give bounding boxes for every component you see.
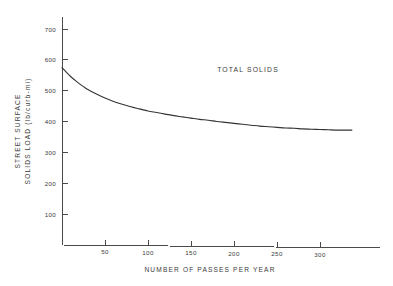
total-solids-line-chart: 700 600 500 400 300 200 100 50 100 150 2…	[0, 0, 393, 286]
y-tick-label-100: 100	[45, 211, 57, 218]
x-tick-label-50: 50	[101, 248, 109, 255]
x-axis-tick-labels: 50 100 150 200 250 300	[101, 248, 326, 258]
x-tick-label-100: 100	[142, 249, 154, 256]
y-axis-ticks	[62, 29, 68, 214]
x-axis-title: NUMBER OF PASSES PER YEAR	[144, 266, 275, 273]
y-tick-label-400: 400	[45, 118, 57, 125]
y-tick-label-300: 300	[45, 149, 57, 156]
y-tick-label-600: 600	[45, 56, 57, 63]
y-axis-title-line2: SOLIDS LOAD (lb/curb-mi)	[24, 78, 32, 185]
x-tick-label-200: 200	[228, 250, 240, 257]
x-axis-line	[62, 245, 380, 248]
y-tick-label-200: 200	[45, 180, 57, 187]
y-tick-label-500: 500	[45, 87, 57, 94]
total-solids-curve	[62, 68, 352, 131]
y-tick-label-700: 700	[45, 26, 57, 33]
chart-figure: 700 600 500 400 300 200 100 50 100 150 2…	[0, 0, 393, 286]
x-tick-label-150: 150	[185, 249, 197, 256]
y-axis-tick-labels: 700 600 500 400 300 200 100	[45, 26, 57, 218]
x-tick-label-250: 250	[271, 250, 283, 257]
series-annotation-total-solids: TOTAL SOLIDS	[217, 66, 279, 73]
y-axis-title-line1: STREET SURFACE	[14, 94, 21, 169]
x-tick-label-300: 300	[314, 251, 326, 258]
